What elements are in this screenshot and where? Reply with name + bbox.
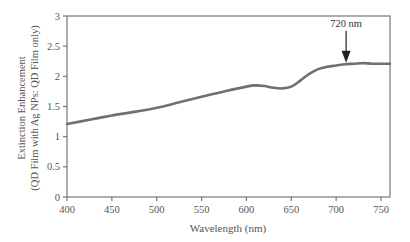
extinction-enhancement-chart: 00.511.522.53 400450500550600650700750 7… — [0, 0, 410, 242]
x-axis-label: Wavelength (nm) — [190, 222, 267, 235]
y-axis-label-line1: Extinction Enhancement — [16, 56, 27, 160]
peak-annotation: 720 nm — [330, 18, 362, 63]
annotation-label: 720 nm — [330, 18, 362, 29]
y-tick-label: 1.5 — [47, 101, 60, 112]
y-tick-label: 2 — [55, 71, 60, 82]
data-line — [67, 63, 390, 124]
y-axis-label-line2: (QD Film with Ag NPs: QD Film only) — [29, 25, 41, 191]
x-tick-label: 500 — [149, 204, 165, 215]
x-tick-label: 400 — [59, 204, 75, 215]
x-tick-label: 450 — [104, 204, 120, 215]
y-tick-label: 1 — [55, 131, 60, 142]
x-tick-label: 650 — [283, 204, 299, 215]
x-tick-label: 600 — [239, 204, 255, 215]
x-tick-label: 550 — [194, 204, 210, 215]
y-tick-label: 0 — [55, 192, 60, 203]
x-tick-label: 700 — [328, 204, 344, 215]
y-tick-label: 2.5 — [47, 41, 60, 52]
plot-frame — [67, 16, 390, 197]
y-tick-label: 3 — [55, 11, 60, 22]
x-tick-label: 750 — [373, 204, 389, 215]
x-axis: 400450500550600650700750 — [59, 197, 389, 215]
y-axis: 00.511.522.53 — [47, 11, 67, 203]
y-tick-label: 0.5 — [47, 161, 60, 172]
